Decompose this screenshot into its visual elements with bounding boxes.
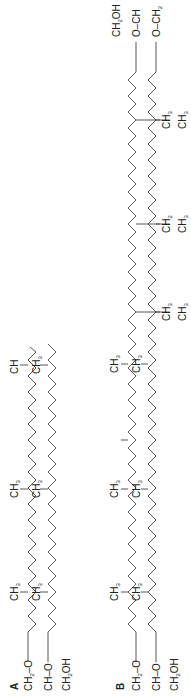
svg-text:CH3: CH3 — [161, 303, 173, 321]
svg-text:CH–O: CH–O — [43, 663, 54, 691]
svg-text:CH2OH: CH2OH — [61, 658, 73, 691]
panel-label-b: B — [115, 683, 126, 690]
isoprenoid-chain-a1 — [28, 347, 36, 662]
svg-text:CH3: CH3 — [109, 480, 121, 498]
svg-text:CH3: CH3 — [9, 583, 21, 601]
panel-a: A CH2–O CH–O CH2OH CH3 CH3 CH3 CH3 CH CH… — [9, 344, 73, 691]
glycerol-backbone-a: CH2–O CH–O CH2OH — [23, 658, 73, 691]
svg-text:CH2–O: CH2–O — [23, 660, 35, 691]
glycerol-backbone-b-right: O–CH O–CH2 CH2OH — [111, 4, 163, 37]
panel-b: B CH2–O CH–O CH2OH CH3 CH3 CH3 CH3 CH3 C… — [109, 4, 189, 691]
isoprenoid-chain-b2 — [148, 42, 156, 662]
diagram-canvas: A CH2–O CH–O CH2OH CH3 CH3 CH3 CH3 CH CH… — [0, 0, 191, 697]
svg-text:CH: CH — [9, 360, 20, 374]
svg-text:CH3: CH3 — [31, 356, 43, 374]
svg-text:CH3: CH3 — [9, 480, 21, 498]
svg-text:CH–O: CH–O — [151, 663, 162, 691]
svg-text:CH2OH: CH2OH — [111, 4, 123, 37]
svg-text:CH3: CH3 — [131, 480, 143, 498]
svg-text:CH3: CH3 — [177, 111, 189, 129]
svg-text:CH2–O: CH2–O — [131, 660, 143, 691]
svg-text:CH2OH: CH2OH — [169, 658, 181, 691]
svg-text:CH3: CH3 — [31, 480, 43, 498]
svg-text:CH3: CH3 — [161, 111, 173, 129]
isoprenoid-chain-b1 — [128, 42, 136, 662]
svg-text:CH3: CH3 — [131, 583, 143, 601]
svg-text:CH3: CH3 — [109, 355, 121, 373]
svg-text:CH3: CH3 — [177, 303, 189, 321]
svg-text:O–CH: O–CH — [131, 9, 142, 37]
isoprenoid-chain-a2 — [48, 344, 56, 662]
svg-text:CH3: CH3 — [31, 583, 43, 601]
svg-text:O–CH2: O–CH2 — [151, 5, 163, 37]
svg-text:CH3: CH3 — [109, 583, 121, 601]
svg-text:CH3: CH3 — [177, 215, 189, 233]
glycerol-backbone-b-left: CH2–O CH–O CH2OH — [131, 658, 181, 691]
svg-text:CH2: CH2 — [161, 215, 173, 233]
panel-label-a: A — [9, 683, 20, 690]
